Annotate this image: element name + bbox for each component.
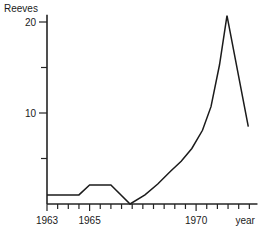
chart-container: 2010196319651970yearReeves: [0, 0, 258, 228]
series-line-reeves: [47, 16, 248, 204]
line-chart: 2010196319651970yearReeves: [0, 0, 258, 228]
y-axis-tick-label: 20: [25, 17, 37, 28]
x-axis-tick-label: 1963: [36, 215, 59, 226]
chart-title: Reeves: [4, 3, 38, 14]
x-axis-tick-label: 1970: [185, 215, 208, 226]
x-axis-tick-label: 1965: [78, 215, 101, 226]
x-axis-label: year: [235, 215, 255, 226]
y-axis-tick-label: 10: [25, 108, 37, 119]
